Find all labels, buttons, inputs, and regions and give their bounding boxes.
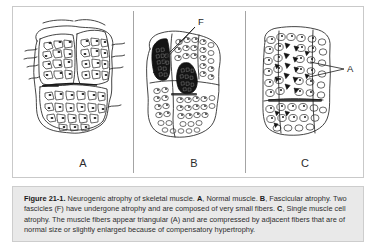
panel-b-marker-f: F — [198, 16, 204, 27]
caption-segment: , Normal muscle. — [202, 194, 260, 203]
caption-segment: Neurogenic atrophy of skeletal muscle. — [65, 194, 196, 203]
panel-label-b: B — [174, 157, 214, 169]
figure-caption-box: Figure 21-1. Neurogenic atrophy of skele… — [12, 186, 364, 242]
panel-a-normal-muscle — [24, 20, 125, 134]
leader-lines-a — [309, 62, 344, 77]
panel-b-fascicular-atrophy: F — [147, 16, 221, 137]
histology-drawing: F — [13, 7, 363, 177]
panel-c-marker-a: A — [347, 63, 354, 74]
caption-figure-number: Figure 21-1. — [24, 194, 65, 203]
figure-caption-text: Figure 21-1. Neurogenic atrophy of skele… — [24, 194, 353, 236]
panel-label-c: C — [285, 157, 325, 169]
figure-illustration-plate: F — [12, 6, 364, 178]
panel-c-single-cell-atrophy: A — [263, 27, 354, 136]
figure-root: F — [0, 0, 375, 250]
panel-label-a: A — [63, 157, 103, 169]
